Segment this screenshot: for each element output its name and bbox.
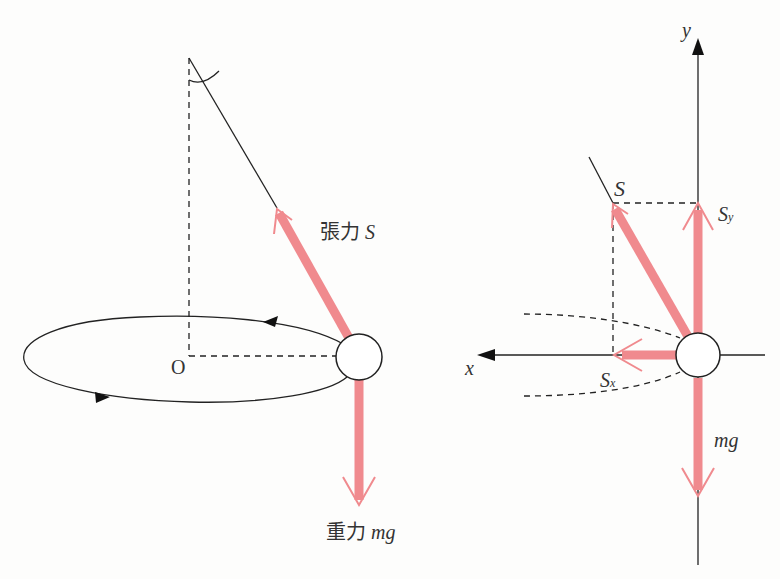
orbit-dashed-upper — [524, 314, 680, 338]
gravity-symbol: mg — [371, 521, 395, 543]
orbit-arrow-top-icon — [263, 316, 278, 327]
orbit-arrow-bottom-icon — [95, 392, 110, 403]
conical-pendulum-diagram: O 張力 S 重力 mg y x S Sy Sx mg — [0, 0, 780, 579]
bob-right — [676, 333, 720, 377]
diagram-graphics — [0, 0, 780, 579]
left-figure — [24, 58, 382, 505]
gravity-label: 重力 mg — [326, 522, 395, 542]
tension-symbol: S — [365, 221, 375, 243]
string-stub — [589, 157, 613, 203]
tension-symbol-right: S — [614, 178, 625, 200]
sx-label: Sx — [600, 370, 615, 390]
tension-arrow-shaft-right — [615, 209, 690, 340]
pendulum-bob — [336, 334, 382, 380]
x-axis-label: x — [465, 358, 474, 378]
gravity-label-prefix: 重力 — [326, 521, 366, 543]
sx-sub: x — [610, 376, 615, 390]
tension-label: 張力 S — [320, 222, 375, 242]
y-axis-label: y — [682, 20, 691, 40]
y-axis-arrowhead-icon — [692, 38, 704, 55]
sy-sub: y — [728, 210, 733, 224]
sx-main: S — [600, 369, 610, 391]
tension-label-prefix: 張力 — [320, 221, 360, 243]
right-figure — [477, 38, 765, 565]
angle-arc — [189, 71, 219, 82]
x-axis-arrowhead-icon — [477, 349, 495, 361]
mg-label-right: mg — [714, 430, 738, 450]
sy-main: S — [718, 203, 728, 225]
sy-label: Sy — [718, 204, 733, 224]
origin-label: O — [171, 357, 185, 377]
string-line — [189, 58, 277, 208]
